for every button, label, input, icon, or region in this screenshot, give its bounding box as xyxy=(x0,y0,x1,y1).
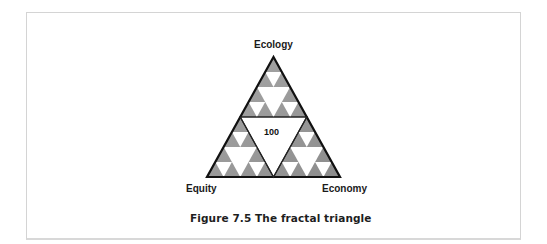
fractal-triangle-diagram xyxy=(0,0,547,244)
vertex-label-equity: Equity xyxy=(186,183,217,194)
figure-caption: Figure 7.5 The fractal triangle xyxy=(190,212,372,224)
vertex-label-economy: Economy xyxy=(322,183,367,194)
center-value: 100 xyxy=(264,127,279,137)
vertex-label-ecology: Ecology xyxy=(254,39,293,50)
